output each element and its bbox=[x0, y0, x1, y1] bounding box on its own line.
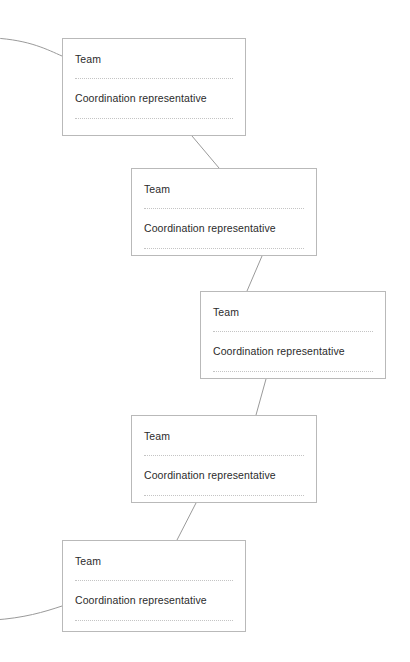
card-divider-bottom bbox=[144, 248, 304, 249]
card-divider-bottom bbox=[213, 371, 373, 372]
connector-team-3-to-team-4 bbox=[256, 379, 266, 415]
team-card-3[interactable]: Team Coordination representative bbox=[200, 291, 386, 379]
connector-team-2-to-team-3 bbox=[247, 256, 262, 291]
team-card-role: Coordination representative bbox=[132, 456, 316, 481]
team-card-4[interactable]: Team Coordination representative bbox=[131, 415, 317, 503]
team-card-2[interactable]: Team Coordination representative bbox=[131, 168, 317, 256]
team-card-title: Team bbox=[132, 169, 316, 195]
team-card-title: Team bbox=[201, 292, 385, 318]
team-card-role: Coordination representative bbox=[132, 209, 316, 234]
card-divider-bottom bbox=[75, 118, 233, 119]
team-card-role: Coordination representative bbox=[63, 79, 245, 104]
team-card-role: Coordination representative bbox=[201, 332, 385, 357]
team-card-role: Coordination representative bbox=[63, 581, 245, 606]
team-card-1[interactable]: Team Coordination representative bbox=[62, 38, 246, 136]
connector-outbound-bottom-left bbox=[0, 606, 62, 620]
connector-inbound-top-left bbox=[0, 38, 62, 56]
team-card-title: Team bbox=[132, 416, 316, 442]
card-divider-bottom bbox=[144, 495, 304, 496]
connector-team-4-to-team-5 bbox=[177, 503, 196, 540]
team-card-title: Team bbox=[63, 541, 245, 567]
team-card-5[interactable]: Team Coordination representative bbox=[62, 540, 246, 632]
card-divider-bottom bbox=[75, 620, 233, 621]
connector-team-1-to-team-2 bbox=[192, 136, 219, 168]
flow-diagram-canvas: Team Coordination representative Team Co… bbox=[0, 0, 410, 662]
team-card-title: Team bbox=[63, 39, 245, 65]
